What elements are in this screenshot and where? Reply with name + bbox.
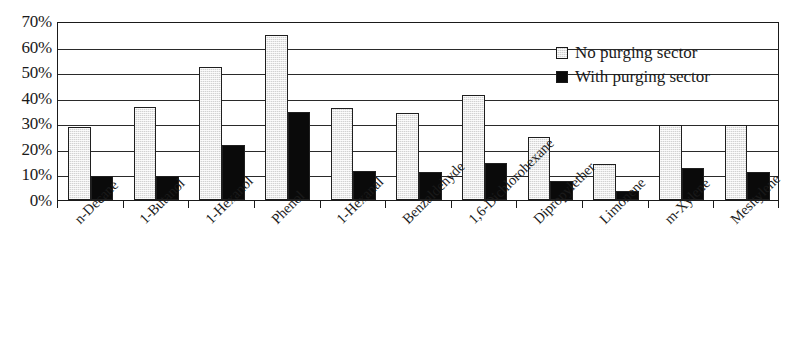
y-axis-tick-label: 50%	[21, 64, 52, 81]
y-axis-tick-label: 30%	[21, 115, 52, 132]
legend-item-label: No purging sector	[575, 44, 697, 62]
bar	[462, 95, 485, 200]
bar-group	[58, 23, 124, 200]
chart-legend: No purging sector With purging sector	[556, 41, 771, 89]
bar	[199, 67, 222, 200]
bar	[396, 113, 419, 200]
x-axis-labels: n-Decane1-Butanol1-HexanolPhenol1-Hexana…	[0, 208, 795, 359]
legend-swatch-light-gray-square	[556, 47, 568, 59]
x-axis-tick	[582, 201, 583, 208]
legend-item-no-purging-sector: No purging sector	[556, 41, 771, 64]
legend-item-label: With purging sector	[575, 68, 710, 86]
y-axis-tick-label: 0%	[30, 192, 52, 209]
bar-group	[255, 23, 321, 200]
y-axis-tick-label: 10%	[21, 166, 52, 183]
x-axis-tick	[254, 201, 255, 208]
x-axis-tick	[451, 201, 452, 208]
y-axis-tick-label: 60%	[21, 39, 52, 56]
x-axis-tick	[648, 201, 649, 208]
bar	[331, 108, 354, 200]
legend-swatch-black-square	[556, 71, 568, 83]
x-axis-tick	[713, 201, 714, 208]
y-axis-tick-label: 40%	[21, 90, 52, 107]
legend-item-with-purging-sector: With purging sector	[556, 65, 771, 88]
x-axis-tick	[320, 201, 321, 208]
x-axis-tick	[516, 201, 517, 208]
bar	[725, 125, 748, 200]
x-axis-tick	[188, 201, 189, 208]
bar	[68, 127, 91, 200]
x-axis-tick	[57, 201, 58, 208]
bar	[134, 107, 157, 200]
y-axis: 70%60%50%40%30%20%10%0%	[0, 0, 56, 215]
x-axis-tick	[385, 201, 386, 208]
bar-chart: 70%60%50%40%30%20%10%0% n-Decane1-Butano…	[0, 0, 795, 359]
bar	[288, 112, 311, 200]
bar	[659, 125, 682, 200]
y-axis-tick-label: 70%	[21, 13, 52, 30]
x-axis-tick	[123, 201, 124, 208]
bar-group	[124, 23, 190, 200]
bar	[265, 35, 288, 200]
y-axis-tick-label: 20%	[21, 141, 52, 158]
x-axis-tick	[778, 201, 779, 208]
